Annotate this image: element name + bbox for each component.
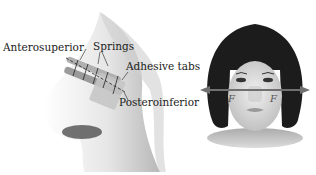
left-eye	[236, 78, 246, 82]
diagram-canvas: Anterosuperior Springs Adhesive tabs Pos…	[0, 0, 316, 175]
label-anterosuperior: Anterosuperior	[3, 42, 84, 53]
force-label-right: F	[270, 94, 277, 104]
nasal-strip	[248, 86, 262, 102]
force-label-left: F	[228, 94, 235, 104]
nose-profile-illustration	[0, 0, 316, 175]
face-illustration	[200, 24, 310, 148]
nostril	[62, 125, 102, 139]
right-eye	[263, 78, 273, 82]
label-springs: Springs	[93, 41, 134, 52]
arrow-right-icon	[300, 86, 310, 94]
arrow-left-icon	[200, 86, 210, 94]
label-adhesive-tabs: Adhesive tabs	[126, 61, 200, 72]
label-posteroinferior: Posteroinferior	[119, 97, 199, 108]
